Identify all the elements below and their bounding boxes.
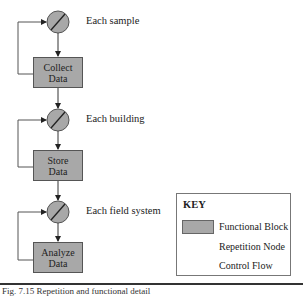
legend-item-repetition-node: Repetition Node: [219, 241, 285, 252]
legend-box: KEY Functional Block Repetition Node Con…: [176, 193, 291, 276]
functional-block-collect-data: Collect Data: [33, 57, 83, 88]
key-functional-block-icon: [182, 220, 214, 234]
repetition-node-1-icon: [47, 11, 69, 33]
block-label-line2: Data: [49, 73, 68, 84]
legend-item-functional-block: Functional Block: [219, 221, 288, 232]
block-label-line1: Analyze: [41, 247, 74, 258]
block-label-line1: Store: [47, 155, 68, 166]
block-label-line1: Collect: [44, 62, 73, 73]
repetition-node-3-icon: [47, 201, 69, 223]
functional-block-analyze-data: Analyze Data: [33, 242, 83, 273]
loop-label-each-sample: Each sample: [86, 15, 139, 26]
legend-title: KEY: [183, 199, 206, 210]
figure-caption: Fig. 7.15 Repetition and functional deta…: [2, 286, 150, 296]
block-label-line2: Data: [49, 166, 68, 177]
loop-label-each-building: Each building: [86, 113, 145, 124]
loop-label-each-field-system: Each field system: [86, 205, 161, 216]
caption-divider: [0, 283, 303, 285]
block-label-line2: Data: [49, 258, 68, 269]
functional-block-store-data: Store Data: [33, 150, 83, 181]
legend-item-control-flow: Control Flow: [219, 260, 273, 271]
repetition-node-2-icon: [47, 109, 69, 131]
